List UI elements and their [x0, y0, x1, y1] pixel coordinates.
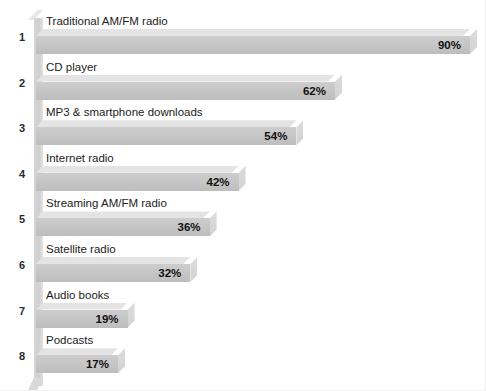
bar-top-face: [36, 75, 335, 82]
bar-end-cap: [118, 348, 125, 373]
row-rank-number: 7: [14, 305, 30, 317]
row-category-label: CD player: [46, 59, 100, 75]
bar-end-cap: [335, 75, 342, 100]
row-category-label: Traditional AM/FM radio: [46, 13, 171, 29]
bar: 54%: [36, 120, 296, 145]
bar-value-label: 90%: [438, 38, 461, 52]
bar-end-cap: [239, 166, 246, 191]
row-category-label: Satellite radio: [46, 241, 119, 257]
bar-top-face: [36, 166, 239, 173]
bar-top-face: [36, 120, 296, 127]
bar-value-label: 19%: [96, 312, 119, 326]
bar-end-cap: [210, 211, 217, 236]
bar-row: 2CD player62%: [0, 56, 486, 102]
row-category-label: Streaming AM/FM radio: [46, 195, 170, 211]
bar-top-face: [36, 303, 128, 310]
bar-value-label: 32%: [158, 266, 181, 280]
row-rank-number: 4: [14, 168, 30, 180]
bar-top-face: [36, 348, 118, 355]
bar-top-face: [36, 29, 470, 36]
row-rank-number: 6: [14, 259, 30, 271]
row-rank-number: 3: [14, 122, 30, 134]
bar-front-face: [36, 82, 335, 100]
bar: 32%: [36, 257, 190, 282]
row-category-label: MP3 & smartphone downloads: [46, 104, 206, 120]
row-rank-number: 8: [14, 350, 30, 362]
bar-end-cap: [128, 303, 135, 328]
bar-row: 1Traditional AM/FM radio90%: [0, 10, 486, 56]
bar-chart: 1Traditional AM/FM radio90%2CD player62%…: [0, 0, 486, 391]
bar-row: 5Streaming AM/FM radio36%: [0, 192, 486, 238]
bar-value-label: 62%: [303, 84, 326, 98]
bar-front-face: [36, 127, 296, 145]
bar: 17%: [36, 348, 118, 373]
bar-row: 3MP3 & smartphone downloads54%: [0, 101, 486, 147]
row-category-label: Audio books: [46, 287, 112, 303]
bar-row: 7Audio books19%: [0, 284, 486, 330]
bar: 36%: [36, 211, 210, 236]
bar-end-cap: [470, 29, 477, 54]
bar-row: 4Internet radio42%: [0, 147, 486, 193]
bar-top-face: [36, 257, 190, 264]
bar: 62%: [36, 75, 335, 100]
bar-row: 6Satellite radio32%: [0, 238, 486, 284]
bar-row: 8Podcasts17%: [0, 329, 486, 375]
row-category-label: Podcasts: [46, 332, 96, 348]
bar-end-cap: [296, 120, 303, 145]
row-rank-number: 5: [14, 213, 30, 225]
bar: 42%: [36, 166, 239, 191]
bar-value-label: 42%: [207, 175, 230, 189]
bar-value-label: 17%: [86, 357, 109, 371]
bar-end-cap: [190, 257, 197, 282]
bar-value-label: 54%: [264, 129, 287, 143]
row-category-label: Internet radio: [46, 150, 117, 166]
bar: 90%: [36, 29, 470, 54]
row-rank-number: 2: [14, 77, 30, 89]
row-rank-number: 1: [14, 31, 30, 43]
bar-value-label: 36%: [178, 220, 201, 234]
bar-top-face: [36, 211, 210, 218]
bar-front-face: [36, 36, 470, 54]
bar: 19%: [36, 303, 128, 328]
